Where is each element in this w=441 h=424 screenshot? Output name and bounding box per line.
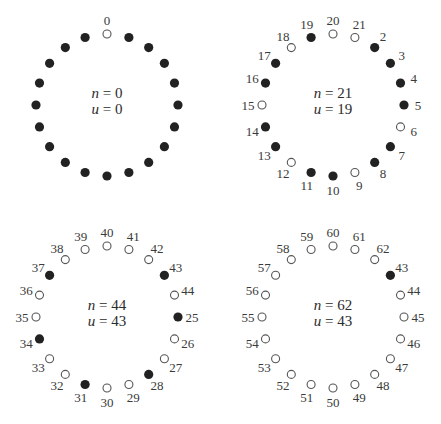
node-label: 37: [32, 260, 46, 275]
node-label: 10: [327, 183, 340, 198]
open-node-icon: [145, 256, 153, 264]
open-node-icon: [329, 30, 337, 38]
open-node-icon: [397, 335, 405, 343]
filled-node-icon: [160, 142, 169, 151]
node-label: 50: [327, 395, 340, 410]
filled-node-icon: [124, 168, 133, 177]
n-counter: n = 21: [314, 85, 352, 101]
filled-node-icon: [102, 171, 111, 180]
filled-node-icon: [396, 79, 405, 88]
filled-node-icon: [81, 168, 90, 177]
open-node-icon: [36, 291, 44, 299]
node-label: 26: [181, 336, 195, 351]
open-node-icon: [125, 246, 133, 254]
open-node-icon: [171, 335, 179, 343]
filled-node-icon: [173, 100, 182, 109]
filled-node-icon: [370, 158, 379, 167]
open-node-icon: [351, 169, 359, 177]
node-label: 52: [277, 378, 290, 393]
open-node-icon: [400, 313, 408, 321]
panel-bottom-left: n = 44 u = 43 40414243442526272829303132…: [16, 225, 199, 410]
filled-node-icon: [81, 33, 90, 42]
filled-node-icon: [45, 59, 54, 68]
node-label: 4: [411, 71, 418, 86]
node-label: 19: [300, 17, 313, 32]
filled-node-icon: [328, 171, 337, 180]
node-label: 20: [327, 13, 340, 28]
panel-bottom-right: n = 62 u = 43 60616243444546474849505152…: [242, 225, 425, 410]
filled-node-icon: [386, 142, 395, 151]
node-label: 0: [104, 13, 111, 28]
node-label: 2: [380, 29, 387, 44]
node-label: 48: [377, 378, 390, 393]
open-node-icon: [81, 246, 89, 254]
node-label: 13: [258, 148, 271, 163]
node-label: 31: [74, 390, 87, 405]
open-node-icon: [125, 381, 133, 389]
filled-node-icon: [307, 33, 316, 42]
node-label: 44: [181, 283, 195, 298]
node-label: 58: [277, 241, 290, 256]
node-label: 32: [51, 378, 64, 393]
filled-node-icon: [271, 59, 280, 68]
open-node-icon: [329, 242, 337, 250]
node-label: 40: [101, 225, 114, 240]
filled-node-icon: [144, 43, 153, 52]
open-node-icon: [272, 355, 280, 363]
u-counter: u = 43: [314, 313, 352, 329]
filled-node-icon: [144, 158, 153, 167]
node-label: 53: [258, 360, 271, 375]
filled-node-icon: [160, 271, 169, 280]
filled-node-icon: [31, 100, 40, 109]
node-label: 55: [242, 310, 255, 325]
node-label: 36: [20, 283, 34, 298]
open-node-icon: [61, 370, 69, 378]
open-node-icon: [386, 355, 394, 363]
filled-node-icon: [261, 122, 270, 131]
node-label: 60: [327, 225, 340, 240]
n-counter: n = 62: [314, 297, 352, 313]
open-node-icon: [351, 246, 359, 254]
node-label: 46: [407, 336, 421, 351]
node-label: 49: [353, 390, 366, 405]
open-node-icon: [307, 381, 315, 389]
open-node-icon: [171, 291, 179, 299]
panel-top-right: n = 21 u = 19 20212345678910111213141516…: [242, 13, 422, 198]
filled-node-icon: [370, 43, 379, 52]
open-node-icon: [103, 30, 111, 38]
node-label: 35: [16, 310, 29, 325]
node-label: 6: [411, 124, 418, 139]
open-node-icon: [103, 242, 111, 250]
open-node-icon: [258, 313, 266, 321]
node-label: 43: [169, 260, 182, 275]
node-label: 30: [101, 395, 114, 410]
filled-node-icon: [45, 271, 54, 280]
filled-node-icon: [170, 79, 179, 88]
node-label: 47: [395, 360, 409, 375]
node-label: 28: [151, 378, 164, 393]
filled-node-icon: [35, 122, 44, 131]
filled-node-icon: [124, 33, 133, 42]
node-label: 14: [246, 124, 260, 139]
open-node-icon: [46, 355, 54, 363]
node-label: 33: [32, 360, 45, 375]
filled-node-icon: [45, 142, 54, 151]
node-label: 34: [20, 336, 34, 351]
node-label: 8: [380, 166, 387, 181]
node-label: 12: [277, 166, 290, 181]
open-node-icon: [32, 313, 40, 321]
open-node-icon: [262, 335, 270, 343]
open-node-icon: [397, 123, 405, 131]
node-label: 15: [242, 98, 255, 113]
filled-node-icon: [170, 122, 179, 131]
filled-node-icon: [173, 312, 182, 321]
open-node-icon: [351, 34, 359, 42]
filled-node-icon: [81, 380, 90, 389]
filled-node-icon: [35, 334, 44, 343]
node-label: 57: [258, 260, 272, 275]
node-label: 39: [74, 229, 87, 244]
open-node-icon: [61, 256, 69, 264]
node-label: 56: [246, 283, 260, 298]
node-label: 54: [246, 336, 260, 351]
open-node-icon: [397, 291, 405, 299]
